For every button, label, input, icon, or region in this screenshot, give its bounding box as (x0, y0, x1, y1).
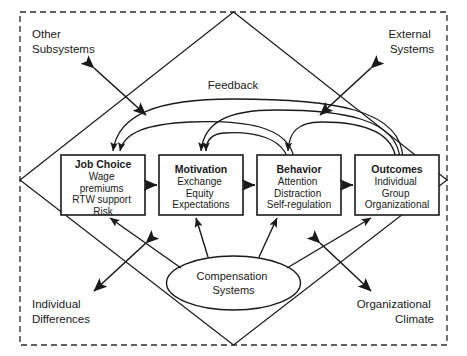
label-external-systems-line-1: Systems (390, 43, 434, 55)
box-behavior-item-1: Distraction (274, 188, 321, 199)
box-motivation-item-2: Expectations (172, 199, 229, 210)
feedback-arc-behavior-jobchoice (120, 122, 294, 158)
label-individual-differences: Individual Differences (32, 298, 90, 325)
box-outcomes-item-2: Organizational (365, 199, 429, 210)
box-job-choice-item-3: Risk (93, 206, 113, 217)
other-subsystems-arrow (94, 68, 146, 115)
label-external-systems-line-0: External (389, 28, 431, 40)
ellipse-label-line-1: Systems (212, 284, 255, 296)
label-organizational-climate-line-1: Climate (395, 313, 434, 325)
feedback-arc-outcomes-motivation (201, 110, 400, 160)
ellipse-arrow-to-job-choice (110, 218, 181, 268)
box-motivation-title: Motivation (175, 163, 228, 175)
label-other-subsystems-line-0: Other (32, 28, 61, 40)
box-job-choice-title: Job Choice (75, 158, 132, 170)
box-job-choice-item-2: RTW support (72, 194, 131, 205)
ellipse-arrow-to-outcomes (287, 218, 371, 268)
ellipse-arrow-to-behavior (259, 218, 277, 257)
box-behavior-item-0: Attention (278, 176, 317, 187)
label-individual-differences-line-1: Differences (32, 313, 90, 325)
box-motivation-item-1: Equity (186, 188, 214, 199)
box-outcomes-item-1: Group (382, 188, 410, 199)
label-individual-differences-line-0: Individual (32, 298, 81, 310)
label-organizational-climate-line-0: Organizational (357, 298, 431, 310)
box-job-choice-item-0: Wage (89, 171, 115, 182)
ellipse-arrow-to-motivation (196, 218, 208, 257)
feedback-arc-outcomes-jobchoice (113, 99, 403, 160)
box-behavior-title: Behavior (277, 163, 322, 175)
box-behavior-item-2: Self-regulation (267, 199, 331, 210)
diagram-canvas: Other Subsystems External Systems Indivi… (0, 0, 467, 356)
label-external-systems: External Systems (389, 28, 435, 55)
label-feedback: Feedback (208, 79, 259, 91)
label-organizational-climate: Organizational Climate (357, 298, 434, 325)
organizational-climate-arrow (320, 243, 371, 291)
ellipse-label-line-0: Compensation (197, 270, 268, 282)
individual-differences-arrow (94, 243, 146, 291)
label-other-subsystems: Other Subsystems (32, 28, 95, 55)
box-outcomes-item-0: Individual (374, 176, 416, 187)
box-job-choice-item-1: premiums (80, 183, 124, 194)
label-other-subsystems-line-1: Subsystems (32, 43, 95, 55)
ellipse-compensation-systems[interactable] (167, 256, 301, 310)
box-motivation-item-0: Exchange (177, 176, 222, 187)
box-outcomes-title: Outcomes (371, 163, 423, 175)
diagram-svg: Other Subsystems External Systems Indivi… (0, 0, 467, 356)
